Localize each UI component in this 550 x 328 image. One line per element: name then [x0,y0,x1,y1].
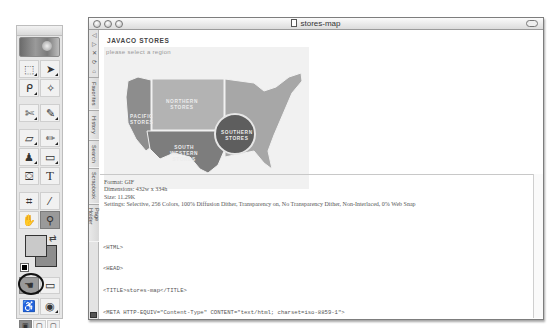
code-line: <HEAD> [103,265,533,272]
tab-favorites[interactable]: Favorites [89,77,99,110]
screen-mode-full[interactable]: ▢ [47,320,60,328]
app-logo-button[interactable] [19,37,60,57]
clone-stamp-tool-icon: ♟ [24,151,34,164]
pencil-tool[interactable]: ✏ [40,129,60,147]
label-northern: NORTHERNSTORES [166,99,198,111]
move-tool-icon: ➤ [46,63,55,76]
image-map-row: ☚ ▭ [17,275,62,296]
page-content: JAVACO STORES please select a region PAC… [100,31,543,319]
refresh-icon[interactable]: ⟳ [90,59,98,66]
toggle-image-map-visibility[interactable]: ▭ [40,277,60,294]
code-line: <TITLE>stores-map</TITLE> [103,287,533,294]
brush-tool-icon: ✎ [46,107,55,120]
document-icon [291,19,297,27]
toolbox-palette: ⬚ ➤ ᑭ ✧ ✄ ✎ ▱ ✏ ♟ ▭ ⛋ T ⌗ ⁄ ✋ ⚲ ⇄ [16,25,63,319]
explorer-sidebar: ◁ ▷ ✕ ⟳ ⌂ Favorites History Search Scrap… [89,30,99,319]
code-line: <HTML> [103,244,533,251]
code-line: <META HTTP-EQUIV="Content-Type" CONTENT=… [103,309,533,316]
full-screen-menu-icon: ▢ [36,322,43,328]
image-map-tool[interactable]: ☚ [19,277,39,294]
image-map-tool-icon: ☚ [24,279,34,292]
rollover-row: ♿ ◉ [17,296,62,317]
eraser-tool[interactable]: ▱ [19,129,39,147]
info-settings: Settings: Selective, 256 Colors, 100% Di… [104,201,533,208]
lasso-tool-icon: ᑭ [26,82,33,95]
window-title-text: stores-map [300,19,340,28]
tab-scrapbook[interactable]: Scrapbook [89,168,99,204]
forward-icon[interactable]: ▷ [90,41,98,48]
tools-grid-4: ⌗ ⁄ ✋ ⚲ [17,190,62,231]
info-size: Size: 11.29K [104,194,533,201]
screen-mode-row: ▣ ▢ ▢ [17,317,62,328]
browser-window: stores-map ◁ ▷ ✕ ⟳ ⌂ Favorites History S… [88,17,544,320]
tools-grid-2: ✄ ✎ [17,102,62,124]
site-title: JAVACO STORES [107,37,169,44]
label-southwestern: SOUTHWESTERNSTORES [170,145,198,163]
label-southern: SOUTHERNSTORES [221,130,253,142]
hand-tool-icon: ✋ [22,214,36,227]
zoom-tool-icon: ⚲ [46,214,54,227]
screen-mode-full-menu[interactable]: ▢ [33,320,46,328]
magic-wand-tool[interactable]: ✧ [40,79,60,97]
clone-stamp-tool[interactable]: ♟ [19,148,39,166]
screen: ⬚ ➤ ᑭ ✧ ✄ ✎ ▱ ✏ ♟ ▭ ⛋ T ⌗ ⁄ ✋ ⚲ ⇄ [0,0,550,328]
html-source-code[interactable]: <HTML> <HEAD> <TITLE>stores-map</TITLE> … [100,229,533,328]
marquee-tool-icon: ⬚ [24,63,34,76]
color-swatches: ⇄ [20,233,59,273]
tab-search[interactable]: Search [89,140,99,168]
gradient-tool-icon: ▭ [45,151,55,164]
default-colors-icon[interactable] [21,264,28,271]
zoom-tool[interactable]: ⚲ [40,211,60,229]
brush-tool[interactable]: ✎ [40,104,60,122]
tools-grid: ⬚ ➤ ᑭ ✧ [17,58,62,99]
eraser-tool-icon: ▱ [25,132,33,145]
stop-icon[interactable]: ✕ [90,50,98,57]
tools-grid-3: ▱ ✏ ♟ ▭ ⛋ T [17,127,62,187]
eyedropper-tool-icon: ⁄ [49,195,51,207]
home-icon[interactable]: ⌂ [90,68,98,75]
standard-screen-icon: ▣ [22,322,29,328]
pencil-tool-icon: ✏ [46,132,55,145]
label-pacific: PACIFICSTORES [130,114,153,126]
type-tool-icon: T [46,168,54,184]
toolbar-toggle-button[interactable] [526,20,538,27]
gradient-tool[interactable]: ▭ [40,148,60,166]
type-tool[interactable]: T [40,167,60,185]
rollover-preview-tool[interactable]: ♿ [19,298,39,315]
optimization-info-panel: Format: GIF Dimensions: 432w x 334h Size… [100,174,533,319]
hand-tool[interactable]: ✋ [19,211,39,229]
magic-wand-tool-icon: ✧ [46,82,55,95]
sidebar-resize-handle[interactable] [90,312,97,318]
lasso-tool[interactable]: ᑭ [19,79,39,97]
image-map-hide-icon: ▭ [45,279,55,292]
toolbox-title-bar[interactable] [17,26,62,36]
slice-tool[interactable]: ✄ [19,104,39,122]
back-icon[interactable]: ◁ [90,32,98,39]
crop-slice-tool-icon: ✄ [25,107,34,120]
crop-tool[interactable]: ⌗ [19,192,39,210]
tab-history[interactable]: History [89,110,99,140]
marquee-tool[interactable]: ⬚ [19,60,39,78]
vertical-scrollbar[interactable] [533,174,543,318]
window-title-bar[interactable]: stores-map [89,18,543,30]
paint-bucket-tool[interactable]: ⛋ [19,167,39,185]
tab-page-holder[interactable]: Page Holder [89,204,99,242]
paint-bucket-tool-icon: ⛋ [25,170,33,183]
screen-mode-standard[interactable]: ▣ [19,320,32,328]
eyedropper-tool[interactable]: ⁄ [40,192,60,210]
info-dimensions: Dimensions: 432w x 334h [104,186,533,193]
full-screen-icon: ▢ [50,322,57,328]
swap-colors-icon[interactable]: ⇄ [49,233,57,243]
foreground-color-swatch[interactable] [25,235,47,257]
preview-in-browser-icon: ◉ [45,300,55,313]
info-format: Format: GIF [104,179,533,186]
rollover-tool-icon: ♿ [22,300,36,313]
crop-tool-icon: ⌗ [26,195,32,208]
move-tool[interactable]: ➤ [40,60,60,78]
window-title: stores-map [89,18,543,30]
preview-in-browser-button[interactable]: ◉ [40,298,60,315]
